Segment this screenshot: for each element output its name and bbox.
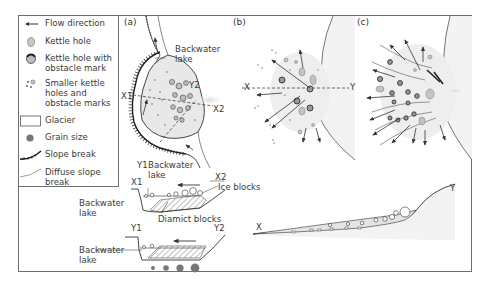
panel-a-plan <box>130 16 224 168</box>
marker-x2: X2 <box>213 104 224 114</box>
label-line: Backwater <box>175 44 220 54</box>
label-line: lake <box>175 54 193 64</box>
backwater-lake-side-label-2: Backwater lake <box>79 245 124 265</box>
cross-section-x-y <box>253 184 455 240</box>
marker-y2: Y2 <box>189 80 200 90</box>
grain-size-scale <box>151 264 199 273</box>
panel-a-label: (a) <box>124 17 137 27</box>
marker-x: X <box>244 82 250 92</box>
marker-x2-section: X2 <box>215 172 226 182</box>
panel-b-label: (b) <box>233 17 246 27</box>
label-line: Backwater <box>79 198 124 208</box>
marker-y: Y <box>350 82 355 92</box>
label-line: Backwater <box>79 245 124 255</box>
marker-y1-section: Y1 <box>131 223 142 233</box>
marker-x1-section: X1 <box>131 177 142 187</box>
label-line: lake <box>79 255 97 265</box>
backwater-lake-side-label-1: Backwater lake <box>79 198 124 218</box>
ice-blocks-label: Ice blocks <box>218 182 261 192</box>
marker-x-section: X <box>256 222 262 232</box>
backwater-lake-label-x1x2: Backwater lake <box>148 160 193 180</box>
marker-y1: Y1 <box>137 160 148 170</box>
label-line: lake <box>148 170 166 180</box>
label-line: Backwater <box>148 160 193 170</box>
panel-c-plan <box>367 16 472 160</box>
backwater-lake-label-a: Backwater lake <box>175 44 220 64</box>
label-line: lake <box>79 208 97 218</box>
cross-section-x1-x2 <box>131 181 225 213</box>
marker-y-section: Y <box>450 183 455 193</box>
diamict-blocks-label: Diamict blocks <box>158 214 221 224</box>
marker-x1: X1 <box>121 91 132 101</box>
panel-b-plan <box>242 16 355 160</box>
marker-y2-section: Y2 <box>214 223 225 233</box>
panel-c-label: (c) <box>357 17 369 27</box>
diagram-artwork <box>0 0 487 290</box>
